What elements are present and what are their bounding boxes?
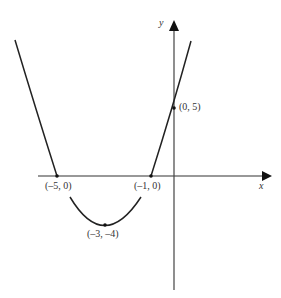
y-axis-arrow-icon bbox=[169, 20, 179, 31]
x-axis-arrow-icon bbox=[262, 171, 272, 181]
point-0-5 bbox=[172, 106, 176, 110]
parabola-graph bbox=[0, 0, 281, 298]
parabola-vertex-arc bbox=[70, 197, 141, 226]
point-minus1-0 bbox=[149, 174, 153, 178]
parabola-left-branch bbox=[15, 40, 57, 176]
y-axis-label: y bbox=[159, 17, 163, 28]
point-label-0-5: (0, 5) bbox=[179, 101, 201, 112]
point-minus5-0 bbox=[55, 174, 59, 178]
point-vertex bbox=[103, 223, 107, 227]
point-label-minus5-0: (–5, 0) bbox=[45, 180, 72, 191]
point-label-vertex: (–3, –4) bbox=[87, 228, 119, 239]
point-label-minus1-0: (–1, 0) bbox=[134, 180, 161, 191]
x-axis-label: x bbox=[259, 180, 263, 191]
